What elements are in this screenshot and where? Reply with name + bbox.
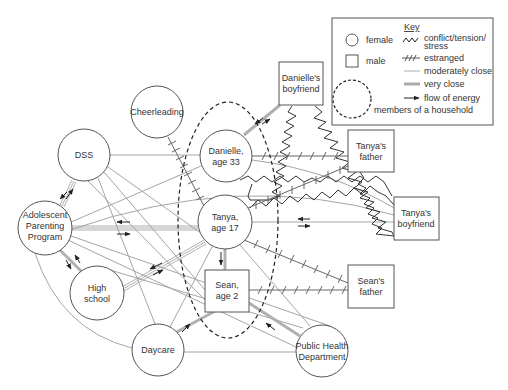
node-label: age 33 (212, 157, 240, 167)
node-cheerleading[interactable]: Cheerleading (130, 86, 184, 138)
node-label: boyfriend (282, 84, 319, 94)
node-danielle[interactable]: Danielle, age 33 (200, 130, 252, 182)
node-public-health[interactable]: Public Health Department (295, 325, 348, 377)
node-label: Danielle, (208, 146, 243, 156)
node-label: Department (298, 352, 346, 362)
node-label: Program (28, 232, 63, 242)
node-label: father (359, 152, 382, 162)
node-tanya[interactable]: Tanya, age 17 (198, 195, 252, 249)
node-dss[interactable]: DSS (58, 129, 110, 181)
node-tanyas-boyfriend[interactable]: Tanya's boyfriend (394, 197, 439, 240)
node-label: DSS (75, 150, 94, 160)
node-label: boyfriend (397, 219, 434, 229)
node-label: Danielle's (282, 73, 321, 83)
legend-label: members of a household (374, 105, 473, 115)
node-danielles-boyfriend[interactable]: Danielle's boyfriend (279, 62, 323, 105)
ecomap-diagram: Cheerleading DSS Adolescent Parenting Pr… (0, 0, 508, 390)
legend-label: very close (424, 79, 465, 89)
node-label: Sean's (357, 276, 385, 286)
node-tanyas-father[interactable]: Tanya's father (348, 130, 394, 172)
moderate-lines (35, 155, 394, 352)
node-label: Cheerleading (130, 107, 184, 117)
legend-heading: Key (404, 22, 420, 32)
node-label: Tanya, (212, 212, 239, 222)
node-label: Parenting (26, 221, 65, 231)
node-label: Public Health (295, 341, 348, 351)
node-high-school[interactable]: High school (70, 266, 124, 320)
node-label: Adolescent (23, 210, 68, 220)
node-label: Tanya's (401, 208, 432, 218)
legend: Key female male conflict/tension/ stress… (332, 18, 493, 125)
node-label: Sean, (215, 280, 239, 290)
legend-label: male (366, 56, 386, 66)
node-seans-father[interactable]: Sean's father (348, 265, 394, 308)
node-label: Tanya's (356, 141, 387, 151)
node-label: father (359, 287, 382, 297)
node-label: High (88, 283, 107, 293)
legend-label: stress (424, 41, 449, 51)
node-daycare[interactable]: Daycare (132, 324, 184, 376)
node-adolescent-parenting-program[interactable]: Adolescent Parenting Program (18, 201, 72, 255)
legend-label: female (366, 35, 393, 45)
node-label: school (84, 294, 110, 304)
legend-label: estranged (424, 53, 464, 63)
legend-label: flow of energy (424, 93, 481, 103)
node-label: age 2 (216, 291, 239, 301)
node-label: Daycare (141, 345, 175, 355)
node-label: age 17 (211, 223, 239, 233)
legend-label: moderately close (424, 66, 492, 76)
estranged-lines (168, 137, 348, 290)
node-sean[interactable]: Sean, age 2 (205, 270, 249, 312)
